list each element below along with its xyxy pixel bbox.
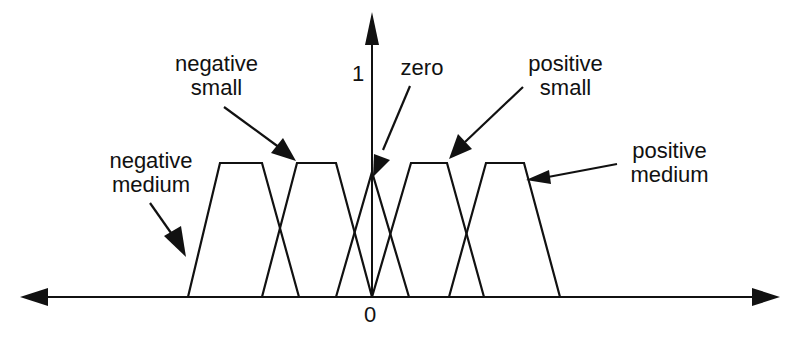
negative-small-label: negativesmall (164, 52, 269, 100)
zero-label: zero (392, 56, 452, 80)
zero-pointer (373, 86, 410, 177)
y-axis-arrow-icon (365, 12, 379, 45)
arrowhead-icon (373, 154, 390, 177)
positive-medium-pointer (526, 164, 617, 184)
y-tick-label: 1 (352, 62, 364, 86)
x-axis-right-arrow-icon (752, 288, 780, 306)
x-axis (20, 288, 780, 306)
positive-small-label: positivesmall (518, 52, 613, 100)
x-origin-label: 0 (364, 303, 376, 327)
x-axis-left-arrow-icon (20, 288, 48, 306)
positive-medium-label: positivemedium (622, 139, 717, 187)
negative-small-pointer (224, 107, 296, 161)
arrowhead-icon (164, 226, 186, 257)
y-axis (365, 12, 379, 297)
arrowhead-icon (271, 138, 296, 161)
negative-medium-pointer (150, 203, 186, 257)
positive-small-pointer (449, 87, 523, 159)
negative-medium-label: negativemedium (96, 149, 206, 197)
